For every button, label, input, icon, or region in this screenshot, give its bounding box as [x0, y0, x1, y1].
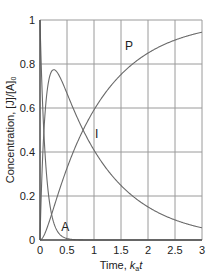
x-tick-label: 0.5 [59, 244, 74, 256]
x-tick-label: 0 [37, 244, 43, 256]
x-tick-label: 3 [199, 244, 205, 256]
y-tick-label: 0 [29, 234, 35, 246]
concentration-time-chart: 00.20.40.60.81 00.511.522.53 AIP Time, k… [0, 0, 211, 275]
grid-lines [40, 20, 202, 240]
curve-labels: AIP [61, 39, 133, 233]
y-tick-label: 0.4 [20, 146, 35, 158]
y-tick-label: 0.2 [20, 190, 35, 202]
y-tick-label: 0.8 [20, 58, 35, 70]
curve-label-i: I [95, 127, 98, 141]
x-tick-label: 2.5 [167, 244, 182, 256]
y-tick-label: 1 [29, 14, 35, 26]
curve-label-p: P [125, 39, 133, 53]
y-tick-label: 0.6 [20, 102, 35, 114]
x-tick-label: 1 [91, 244, 97, 256]
x-axis-label: Time, kat [100, 259, 144, 272]
y-axis-label: Concentration, [J]/[A]0 [4, 77, 17, 184]
x-tick-label: 2 [145, 244, 151, 256]
x-tick-label: 1.5 [113, 244, 128, 256]
x-tick-labels: 00.511.522.53 [37, 244, 205, 256]
curve-label-a: A [61, 220, 69, 234]
y-tick-labels: 00.20.40.60.81 [20, 14, 35, 246]
